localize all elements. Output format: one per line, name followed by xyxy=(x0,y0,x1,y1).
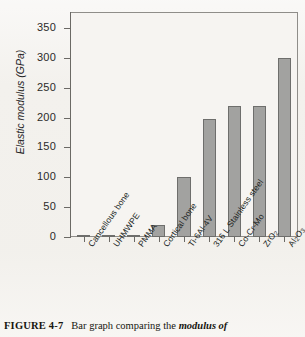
y-tick-row: 300 xyxy=(0,58,64,59)
y-tick-row: 350 xyxy=(0,28,64,29)
x-tick-mark xyxy=(234,237,235,242)
y-tick-mark xyxy=(64,28,70,29)
y-tick-mark xyxy=(64,237,70,238)
x-tick-mark xyxy=(209,237,210,242)
y-tick-row: 150 xyxy=(0,147,64,148)
x-tick-mark xyxy=(159,237,160,242)
x-tick-mark xyxy=(284,237,285,242)
y-tick-mark xyxy=(64,58,70,59)
y-tick-label: 0 xyxy=(18,230,56,242)
x-tick-mark xyxy=(84,237,85,242)
x-tick-mark xyxy=(184,237,185,242)
figure-caption: FIGURE 4-7 Bar graph comparing the modul… xyxy=(4,320,304,332)
y-tick-mark xyxy=(64,88,70,89)
y-tick-mark xyxy=(64,118,70,119)
y-tick-mark xyxy=(64,147,70,148)
y-tick-row: 0 xyxy=(0,237,64,238)
x-tick-mark xyxy=(134,237,135,242)
y-tick-mark xyxy=(64,177,70,178)
y-tick-mark xyxy=(64,207,70,208)
plot-area xyxy=(71,13,297,237)
y-tick-label: 50 xyxy=(18,200,56,212)
y-tick-row: 250 xyxy=(0,88,64,89)
y-tick-row: 50 xyxy=(0,207,64,208)
x-tick-mark xyxy=(109,237,110,242)
x-tick-mark xyxy=(259,237,260,242)
y-tick-row: 200 xyxy=(0,118,64,119)
bar xyxy=(278,58,291,237)
y-tick-label: 100 xyxy=(18,170,56,182)
y-tick-row: 100 xyxy=(0,177,64,178)
figure-page: 050100150200250300350 Elastic modulus (G… xyxy=(0,0,305,337)
caption-figure-number: FIGURE 4-7 xyxy=(4,320,63,331)
bar-series xyxy=(71,13,297,237)
bar-chart: 050100150200250300350 Elastic modulus (G… xyxy=(0,0,305,312)
caption-body: Bar graph comparing the xyxy=(71,320,178,331)
y-tick-label: 350 xyxy=(18,21,56,33)
caption-emphasis: modulus of xyxy=(179,320,228,331)
y-axis-label: Elastic modulus (GPa) xyxy=(14,42,26,162)
